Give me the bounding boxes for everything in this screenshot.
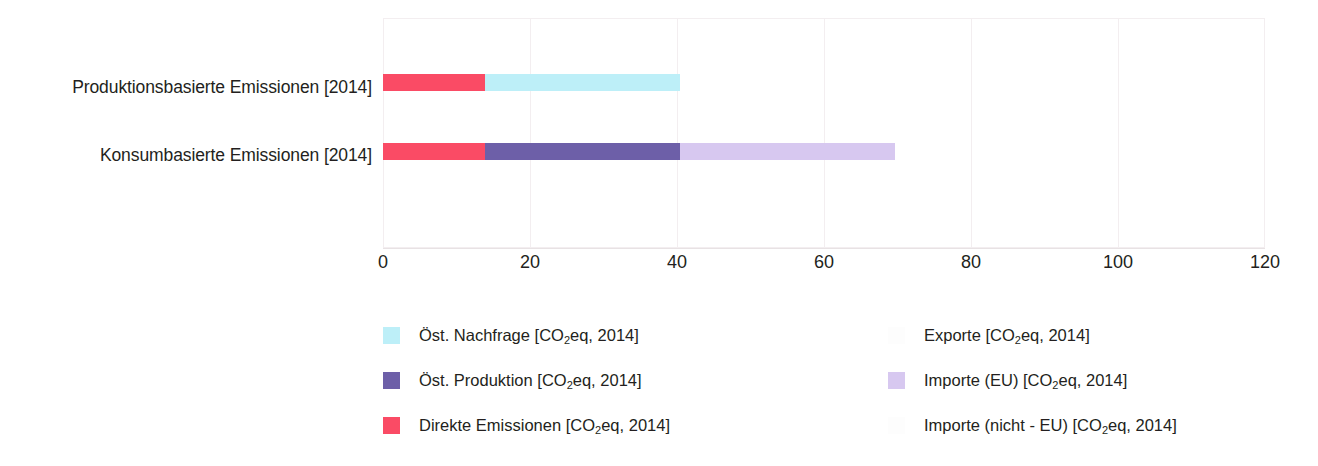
x-tick-label-20: 20 <box>520 252 540 273</box>
legend-swatch-oest-produktion <box>383 372 400 389</box>
x-axis-line <box>383 248 1265 249</box>
bar-segment-importe-eu <box>680 143 895 160</box>
legend-swatch-importe-eu <box>888 372 905 389</box>
category-label-konsumbasiert: Konsumbasierte Emissionen [2014] <box>0 145 372 166</box>
x-tick-label-100: 100 <box>1103 252 1133 273</box>
bar-segment-oest-nachfrage <box>485 74 680 91</box>
legend-label-importe-nicht-eu: Importe (nicht - EU) [CO2eq, 2014] <box>924 414 1177 438</box>
gridline-0 <box>383 18 384 248</box>
bar-segment-direkte-emissionen <box>383 74 485 91</box>
gridline-20 <box>530 18 531 248</box>
gridline-120 <box>1264 18 1265 248</box>
legend-swatch-importe-nicht-eu <box>888 417 905 434</box>
legend-swatch-exporte <box>888 327 905 344</box>
bar-segment-direkte-emissionen <box>383 143 485 160</box>
x-tick-label-40: 40 <box>667 252 687 273</box>
plot-area <box>383 18 1265 248</box>
x-tick-label-0: 0 <box>378 252 388 273</box>
gridline-60 <box>824 18 825 248</box>
legend-swatch-direkte-emissionen <box>383 417 400 434</box>
bar-segment-oest-produktion <box>485 143 680 160</box>
bar-produktionsbasierte-emissionen <box>383 74 1265 91</box>
legend-label-importe-eu: Importe (EU) [CO2eq, 2014] <box>924 369 1127 393</box>
legend-label-oest-produktion: Öst. Produktion [CO2eq, 2014] <box>419 369 642 393</box>
legend-label-direkte-emissionen: Direkte Emissionen [CO2eq, 2014] <box>419 414 670 438</box>
legend-label-exporte: Exporte [CO2eq, 2014] <box>924 324 1090 348</box>
bar-konsumbasierte-emissionen <box>383 143 1265 160</box>
legend-label-oest-nachfrage: Öst. Nachfrage [CO2eq, 2014] <box>419 324 639 348</box>
gridline-40 <box>677 18 678 248</box>
x-tick-label-80: 80 <box>961 252 981 273</box>
gridline-100 <box>1118 18 1119 248</box>
x-tick-label-60: 60 <box>814 252 834 273</box>
category-label-produktionsbasiert: Produktionsbasierte Emissionen [2014] <box>0 77 372 98</box>
chart-legend: Öst. Nachfrage [CO2eq, 2014] Öst. Produk… <box>0 318 1318 458</box>
legend-swatch-oest-nachfrage <box>383 327 400 344</box>
stacked-bar-chart: Produktionsbasierte Emissionen [2014] Ko… <box>0 0 1318 466</box>
x-tick-label-120: 120 <box>1250 252 1280 273</box>
gridline-80 <box>971 18 972 248</box>
